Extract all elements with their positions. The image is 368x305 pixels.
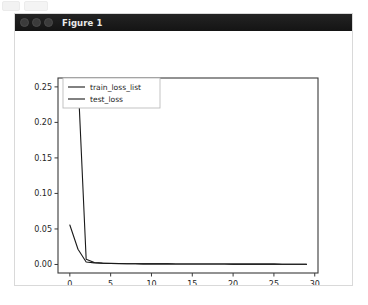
- x-tick-label: 20: [228, 280, 238, 286]
- series-line-1: [70, 225, 307, 264]
- close-icon[interactable]: [20, 18, 29, 27]
- x-tick-label: 5: [108, 280, 113, 286]
- x-tick-label: 15: [187, 280, 197, 286]
- toolbar-ghost-item-1: [2, 1, 20, 11]
- window-title: Figure 1: [62, 18, 103, 28]
- legend-label: test_loss: [90, 95, 123, 104]
- y-tick-label: 0.15: [34, 154, 52, 163]
- x-tick-label: 0: [67, 280, 72, 286]
- y-tick-label: 0.25: [34, 83, 52, 92]
- x-tick-label: 25: [269, 280, 279, 286]
- figure-canvas: 0510152025300.000.050.100.150.200.25n it…: [15, 31, 352, 285]
- legend-label: train_loss_list: [90, 83, 141, 92]
- x-tick-label: 30: [310, 280, 320, 286]
- x-tick-label: 10: [146, 280, 156, 286]
- zoom-icon[interactable]: [44, 18, 53, 27]
- window-titlebar[interactable]: Figure 1: [15, 14, 352, 31]
- y-tick-label: 0.00: [34, 260, 52, 269]
- minimize-icon[interactable]: [32, 18, 41, 27]
- y-tick-label: 0.10: [34, 189, 52, 198]
- figure-window: Figure 1 0510152025300.000.050.100.150.2…: [14, 13, 353, 286]
- y-tick-label: 0.05: [34, 225, 52, 234]
- cropped-toolbar-strip: [0, 0, 368, 12]
- loss-curve-plot: 0510152025300.000.050.100.150.200.25n it…: [15, 31, 352, 285]
- toolbar-ghost-item-2: [24, 1, 48, 11]
- y-tick-label: 0.20: [34, 118, 52, 127]
